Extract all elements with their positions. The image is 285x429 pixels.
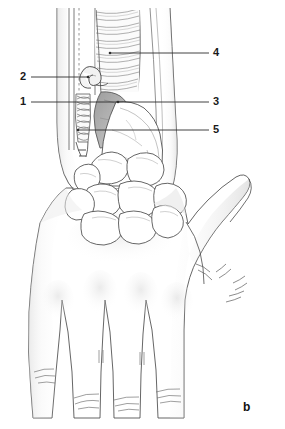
hand-anatomy-illustration bbox=[0, 0, 285, 429]
anatomical-figure: 2 1 4 3 5 b bbox=[0, 0, 285, 429]
callout-label-3: 3 bbox=[213, 96, 219, 107]
callout-label-2: 2 bbox=[20, 71, 26, 82]
callout-label-1: 1 bbox=[20, 96, 26, 107]
callout-label-4: 4 bbox=[213, 47, 219, 58]
muscle-belly-striations bbox=[93, 8, 145, 96]
callout-label-5: 5 bbox=[213, 124, 219, 135]
panel-label: b bbox=[243, 401, 250, 413]
